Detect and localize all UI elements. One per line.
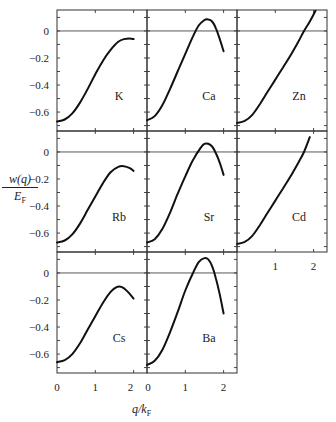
y-tick-label: 0 <box>44 146 50 158</box>
y-tick-label: −0.2 <box>29 52 49 64</box>
panel-cd: Cd12 <box>237 131 327 272</box>
panel-ca: Ca <box>147 10 237 131</box>
y-tick-label: −0.6 <box>29 348 49 360</box>
x-axis-label: q/kF <box>132 402 151 418</box>
panel-ba: Ba012 <box>145 252 237 393</box>
figure: K0−0.2−0.4−0.6CaZnRb0−0.2−0.4−0.6SrCd12C… <box>0 0 336 422</box>
x-tick-label: 1 <box>273 260 279 272</box>
x-tick-label: 2 <box>221 381 227 393</box>
y-axis-label-numerator: w(q) <box>2 172 38 188</box>
y-axis-label: w(q) EF <box>2 172 38 208</box>
x-tick-label: 2 <box>128 381 134 393</box>
panel-label: Ca <box>202 89 216 103</box>
curve-sr <box>147 143 224 242</box>
y-tick-label: −0.6 <box>29 227 49 239</box>
panel-label: Rb <box>112 210 126 224</box>
x-tick-label: 1 <box>183 381 189 393</box>
x-tick-label: 2 <box>311 260 317 272</box>
panel-cs: Cs0−0.2−0.4−0.6012 <box>29 252 147 393</box>
curve-zn <box>237 11 316 123</box>
y-tick-label: −0.2 <box>29 294 49 306</box>
curve-k <box>57 38 134 121</box>
curve-ba <box>147 258 224 365</box>
y-tick-label: −0.6 <box>29 106 49 118</box>
panel-rb: Rb0−0.2−0.4−0.6 <box>29 131 147 252</box>
y-tick-label: −0.4 <box>29 79 49 91</box>
curve-rb <box>57 166 134 243</box>
panel-label: Cs <box>113 331 126 345</box>
x-tick-label: 1 <box>93 381 99 393</box>
x-axis-label-main: q/k <box>132 402 147 416</box>
panel-frame <box>147 10 237 131</box>
x-axis-label-sub: F <box>147 409 151 418</box>
small-multiples-plot: K0−0.2−0.4−0.6CaZnRb0−0.2−0.4−0.6SrCd12C… <box>0 0 336 422</box>
panel-label: Ba <box>202 331 216 345</box>
panel-label: Cd <box>292 210 306 224</box>
panel-label: K <box>115 89 124 103</box>
panel-frame <box>147 131 237 252</box>
panel-label: Zn <box>292 89 305 103</box>
y-axis-label-denominator: EF <box>2 188 38 208</box>
panel-k: K0−0.2−0.4−0.6 <box>29 10 147 131</box>
curve-cs <box>57 287 134 363</box>
y-axis-label-denominator-sub: F <box>21 196 25 205</box>
x-tick-label: 0 <box>145 381 151 393</box>
y-tick-label: 0 <box>44 25 50 37</box>
panel-sr: Sr <box>147 131 237 252</box>
curve-cd <box>237 137 310 244</box>
x-tick-label: 0 <box>54 381 60 393</box>
panel-frame <box>57 10 147 131</box>
y-tick-label: 0 <box>44 267 50 279</box>
panel-frame <box>57 131 147 252</box>
curve-ca <box>147 19 224 120</box>
panel-zn: Zn <box>237 10 327 131</box>
panel-label: Sr <box>204 210 215 224</box>
y-tick-label: −0.4 <box>29 321 49 333</box>
